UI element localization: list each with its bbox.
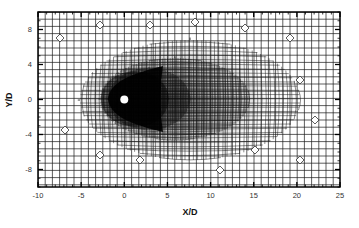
- x-axis-label: X/D: [182, 207, 198, 217]
- y-tick-label: -8: [25, 165, 32, 174]
- cylinder: [120, 96, 128, 104]
- x-tick-label: -10: [33, 191, 44, 200]
- y-axis-label: Y/D: [4, 92, 14, 108]
- mesh-figure: -10-50510152025 840-4-8 X/D Y/D: [0, 0, 359, 228]
- y-tick-label: 8: [28, 25, 32, 34]
- y-tick-label: 0: [28, 95, 32, 104]
- y-tick-labels: 840-4-8: [25, 25, 32, 174]
- x-tick-label: 20: [293, 191, 301, 200]
- x-tick-label: 10: [206, 191, 214, 200]
- x-tick-label: 15: [250, 191, 258, 200]
- y-tick-label: -4: [25, 130, 32, 139]
- x-tick-label: -5: [78, 191, 85, 200]
- dense-wake-region: [80, 44, 270, 154]
- x-tick-labels: -10-50510152025: [33, 191, 345, 200]
- x-tick-label: 0: [122, 191, 126, 200]
- y-tick-label: 4: [28, 60, 32, 69]
- x-tick-label: 25: [336, 191, 344, 200]
- x-tick-label: 5: [165, 191, 169, 200]
